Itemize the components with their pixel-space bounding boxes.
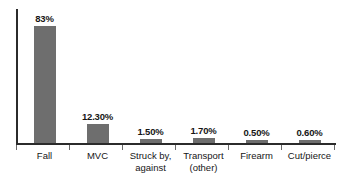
category-label-transport-other: Transport (other)	[177, 150, 230, 173]
category-label-line: Fall	[19, 150, 70, 162]
bar-value-label: 1.70%	[191, 125, 217, 136]
bar-transport-other	[193, 138, 215, 143]
category-label-line: Firearm	[231, 150, 282, 162]
category-label-line: against	[125, 162, 176, 174]
category-label-line: (other)	[178, 162, 229, 174]
category-label-cut-pierce: Cut/pierce	[283, 150, 336, 173]
bar-group-fall: 83%	[18, 9, 71, 143]
bar-struck-by-against	[140, 139, 162, 143]
bar-value-label: 83%	[35, 13, 53, 24]
bar-group-cut-pierce: 0.60%	[283, 9, 336, 143]
bar-mvc	[87, 124, 109, 143]
bar-firearm	[246, 140, 268, 143]
bar-cut-pierce	[299, 140, 321, 143]
bar-group-struck-by-against: 1.50%	[124, 9, 177, 143]
bar-group-transport-other: 1.70%	[177, 9, 230, 143]
category-label-line: MVC	[72, 150, 123, 162]
bar-group-mvc: 12.30%	[71, 9, 124, 143]
plot-area: 83% 12.30% 1.50% 1.70% 0.50% 0.60%	[18, 9, 336, 143]
bar-value-label: 0.60%	[297, 127, 323, 138]
x-axis-tick	[16, 145, 17, 150]
bar-fall	[34, 26, 56, 143]
category-label-fall: Fall	[18, 150, 71, 173]
bar-chart: 83% 12.30% 1.50% 1.70% 0.50% 0.60%	[0, 0, 347, 184]
bar-value-label: 12.30%	[82, 111, 113, 122]
bar-group-firearm: 0.50%	[230, 9, 283, 143]
x-axis-category-labels: Fall MVC Struck by, against Transport (o…	[18, 150, 336, 173]
bar-value-label: 1.50%	[138, 126, 164, 137]
category-label-mvc: MVC	[71, 150, 124, 173]
category-label-line: Transport	[178, 150, 229, 162]
category-label-line: Struck by,	[125, 150, 176, 162]
category-label-line: Cut/pierce	[284, 150, 335, 162]
bar-value-label: 0.50%	[244, 127, 270, 138]
category-label-struck-by-against: Struck by, against	[124, 150, 177, 173]
category-label-firearm: Firearm	[230, 150, 283, 173]
